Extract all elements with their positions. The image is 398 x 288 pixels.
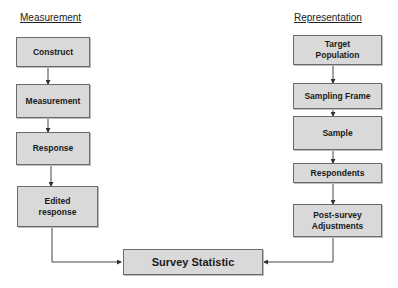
node-respondents: Respondents <box>293 163 382 183</box>
node-target-population: Target Population <box>293 35 382 65</box>
node-construct: Construct <box>16 37 90 67</box>
node-label: Respondents <box>311 168 365 179</box>
node-label: Survey Statistic <box>152 257 235 268</box>
node-label: Sample <box>322 128 352 139</box>
node-label: Post-survey Adjustments <box>312 210 363 232</box>
node-measurement: Measurement <box>16 84 90 118</box>
node-label: Response <box>33 143 74 154</box>
node-survey-statistic: Survey Statistic <box>123 249 263 275</box>
node-label: Target Population <box>316 39 360 61</box>
node-sampling-frame: Sampling Frame <box>293 83 382 109</box>
node-label: Measurement <box>26 96 81 107</box>
node-label: Construct <box>33 47 73 58</box>
node-post-survey-adjustments: Post-survey Adjustments <box>293 204 382 237</box>
node-edited-response: Edited response <box>17 186 98 227</box>
node-label: Sampling Frame <box>304 91 370 102</box>
node-sample: Sample <box>293 116 382 150</box>
node-response: Response <box>16 132 90 165</box>
node-label: Edited response <box>39 196 77 218</box>
